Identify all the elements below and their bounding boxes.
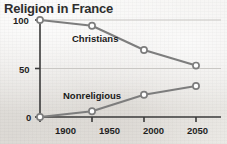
chart-title: Religion in France	[4, 1, 113, 16]
x-tick-label-2000: 2000	[143, 125, 164, 136]
x-tick-label-1950: 1950	[99, 125, 120, 136]
line-chart-plot	[0, 0, 227, 144]
y-tick-label-50: 50	[19, 64, 30, 75]
y-tick-label-0: 0	[26, 112, 31, 123]
x-tick-label-2050: 2050	[187, 125, 208, 136]
series-label-christians: Christians	[72, 33, 118, 44]
series-label-nonreligious: Nonreligious	[63, 90, 121, 101]
x-tick-label-1900: 1900	[55, 125, 76, 136]
y-tick-label-100: 100	[13, 15, 29, 26]
